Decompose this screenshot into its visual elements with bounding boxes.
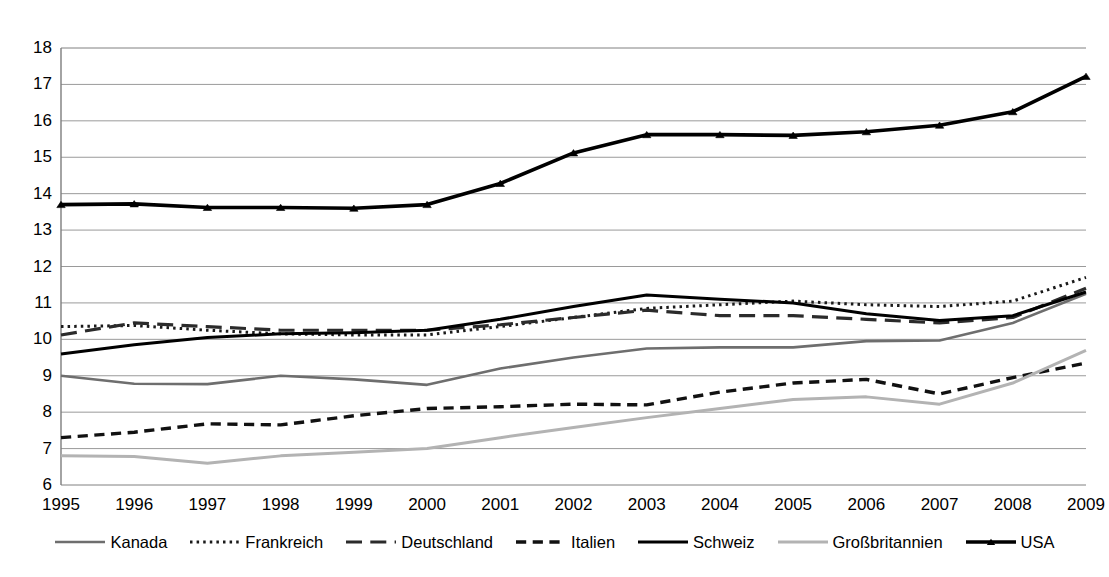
x-tick-label-2004: 2004 xyxy=(684,496,756,513)
x-tick-label-2002: 2002 xyxy=(538,496,610,513)
y-tick-label-18: 18 xyxy=(0,39,52,56)
y-tick-label-17: 17 xyxy=(0,75,52,92)
legend-item-frankreich[interactable]: Frankreich xyxy=(189,534,323,551)
legend-swatch-deutschland xyxy=(345,535,397,549)
series-line-deutschland xyxy=(61,288,1086,335)
legend-label: Schweiz xyxy=(693,534,754,551)
x-tick-label-2001: 2001 xyxy=(464,496,536,513)
legend-swatch-kanada xyxy=(54,535,106,549)
legend-item-italien[interactable]: Italien xyxy=(515,534,615,551)
legend-label: Frankreich xyxy=(245,534,323,551)
legend-label: Italien xyxy=(571,534,615,551)
legend-swatch-usa xyxy=(965,535,1017,549)
chart-legend: KanadaFrankreichDeutschlandItalienSchwei… xyxy=(0,527,1109,557)
series-line-schweiz xyxy=(61,292,1086,354)
line-chart: 1817161514131211109876 19951996199719981… xyxy=(0,0,1109,577)
x-tick-label-1995: 1995 xyxy=(25,496,97,513)
legend-label: Kanada xyxy=(110,534,167,551)
y-tick-label-12: 12 xyxy=(0,258,52,275)
series-line-gro-britannien xyxy=(61,350,1086,463)
y-tick-label-16: 16 xyxy=(0,112,52,129)
y-tick-label-14: 14 xyxy=(0,185,52,202)
chart-plot-area xyxy=(0,0,1109,577)
legend-item-kanada[interactable]: Kanada xyxy=(54,534,167,551)
y-tick-label-9: 9 xyxy=(0,367,52,384)
series-line-usa xyxy=(61,76,1086,208)
y-tick-label-10: 10 xyxy=(0,330,52,347)
y-tick-label-13: 13 xyxy=(0,221,52,238)
legend-label: USA xyxy=(1021,534,1055,551)
legend-item-usa[interactable]: USA xyxy=(965,534,1055,551)
x-tick-label-1996: 1996 xyxy=(98,496,170,513)
x-tick-label-2009: 2009 xyxy=(1050,496,1109,513)
x-tick-label-2006: 2006 xyxy=(830,496,902,513)
x-tick-label-2000: 2000 xyxy=(391,496,463,513)
legend-item-gro-britannien[interactable]: Großbritannien xyxy=(777,534,943,551)
legend-swatch-italien xyxy=(515,535,567,549)
y-tick-label-15: 15 xyxy=(0,148,52,165)
legend-label: Deutschland xyxy=(401,534,493,551)
x-tick-label-1998: 1998 xyxy=(245,496,317,513)
legend-item-deutschland[interactable]: Deutschland xyxy=(345,534,493,551)
legend-item-schweiz[interactable]: Schweiz xyxy=(637,534,754,551)
x-tick-label-1999: 1999 xyxy=(318,496,390,513)
x-tick-label-2003: 2003 xyxy=(611,496,683,513)
legend-swatch-schweiz xyxy=(637,535,689,549)
y-tick-label-8: 8 xyxy=(0,403,52,420)
legend-label: Großbritannien xyxy=(833,534,943,551)
y-tick-label-11: 11 xyxy=(0,294,52,311)
y-tick-label-7: 7 xyxy=(0,440,52,457)
y-tick-label-6: 6 xyxy=(0,476,52,493)
x-tick-label-2008: 2008 xyxy=(977,496,1049,513)
x-tick-label-1997: 1997 xyxy=(171,496,243,513)
x-tick-label-2005: 2005 xyxy=(757,496,829,513)
legend-swatch-frankreich xyxy=(189,535,241,549)
x-tick-label-2007: 2007 xyxy=(904,496,976,513)
legend-swatch-gro-britannien xyxy=(777,535,829,549)
